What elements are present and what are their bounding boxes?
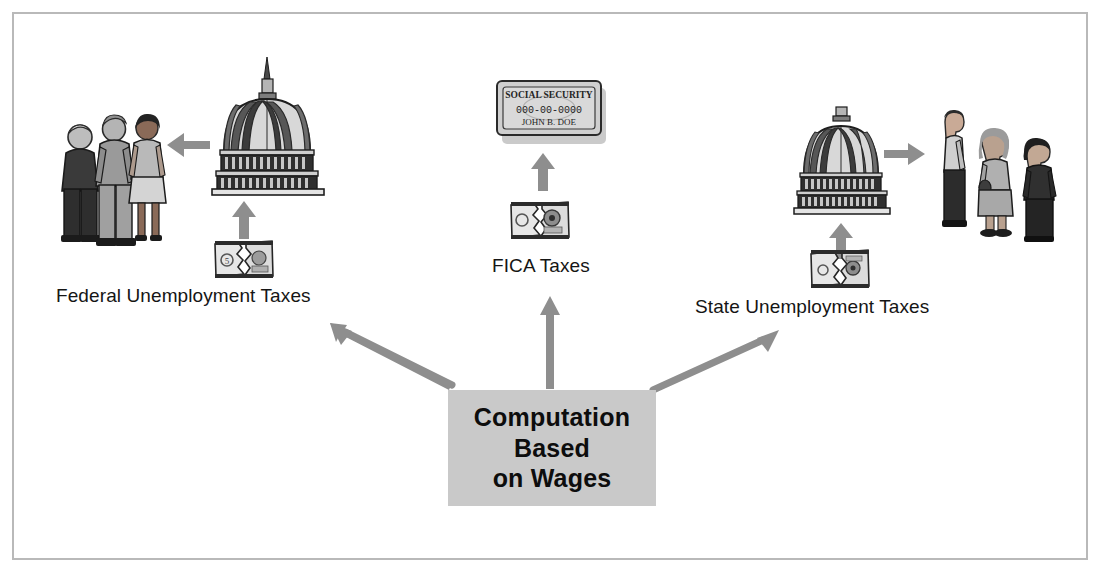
- social-security-card-icon: SOCIAL SECURITY 000-00-0000 JOHN B. DOE: [494, 78, 610, 146]
- svg-text:5: 5: [225, 256, 230, 266]
- ssn-card-name: JOHN B. DOE: [522, 117, 577, 127]
- computation-box-line-3: on Wages: [493, 463, 612, 494]
- state-taxes-label: State Unemployment Taxes: [695, 296, 929, 318]
- arrow-box-to-federal-icon: [300, 320, 460, 400]
- federal-taxes-label: Federal Unemployment Taxes: [56, 285, 311, 307]
- torn-dollar-bill-icon: [806, 246, 872, 292]
- arrow-capitol-to-people-icon: [884, 142, 926, 166]
- torn-dollar-bill-icon: 5: [212, 238, 276, 282]
- torn-dollar-bill-icon: [508, 198, 572, 244]
- computation-box-line-2: Based: [514, 433, 590, 464]
- arrow-federal-money-to-capitol-icon: [231, 200, 257, 240]
- arrow-box-to-fica-icon: [538, 295, 562, 390]
- ssn-card-heading: SOCIAL SECURITY: [505, 90, 593, 100]
- computation-box: Computation Based on Wages: [448, 390, 656, 506]
- diagram-canvas: 5 Federal Unemployment Taxes SOCIAL SECU…: [0, 0, 1104, 576]
- arrow-box-to-state-icon: [645, 322, 805, 402]
- people-profile-group-icon: [928, 110, 1063, 240]
- fica-taxes-label: FICA Taxes: [492, 255, 590, 277]
- computation-box-line-1: Computation: [474, 402, 630, 433]
- arrow-capitol-to-people-icon: [166, 132, 210, 158]
- capitol-dome-icon: [790, 104, 894, 220]
- capitol-dome-icon: [206, 55, 330, 195]
- arrow-fica-money-to-card-icon: [530, 152, 556, 192]
- ssn-card-number: 000-00-0000: [516, 105, 582, 116]
- people-back-group-icon: [48, 115, 178, 250]
